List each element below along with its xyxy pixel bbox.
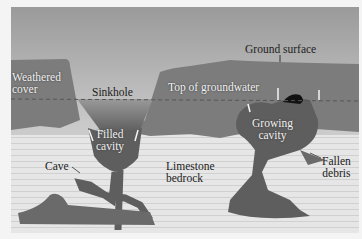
label-weathered-cover: Weatheredcover bbox=[12, 71, 72, 95]
label-top-of-groundwater: Top of groundwater bbox=[168, 81, 259, 93]
diagram-graphic bbox=[0, 0, 362, 239]
sinkhole-diagram: Weatheredcover Sinkhole Top of groundwat… bbox=[0, 0, 362, 239]
label-sinkhole: Sinkhole bbox=[92, 86, 133, 98]
label-cave: Cave bbox=[45, 160, 69, 172]
label-ground-surface: Ground surface bbox=[245, 43, 316, 55]
label-fallen-debris: Fallendebris bbox=[322, 155, 351, 179]
label-filled-cavity: Filledcavity bbox=[96, 128, 124, 152]
label-limestone-bedrock: Limestonebedrock bbox=[166, 160, 215, 184]
label-growing-cavity: Growingcavity bbox=[252, 117, 293, 141]
